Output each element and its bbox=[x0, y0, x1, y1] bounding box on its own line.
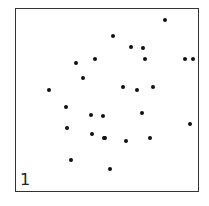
data-point bbox=[89, 113, 93, 117]
data-point bbox=[111, 34, 115, 38]
data-point bbox=[108, 167, 112, 171]
data-point bbox=[69, 158, 73, 162]
data-point bbox=[151, 85, 155, 89]
data-point bbox=[65, 126, 69, 130]
data-point bbox=[141, 46, 145, 50]
data-point bbox=[103, 136, 107, 140]
data-point bbox=[121, 85, 125, 89]
data-point bbox=[47, 88, 51, 92]
data-point bbox=[143, 57, 147, 61]
data-point bbox=[183, 57, 187, 61]
data-point bbox=[148, 136, 152, 140]
data-point bbox=[163, 18, 167, 22]
data-point bbox=[74, 61, 78, 65]
panel-label: 1 bbox=[20, 172, 30, 188]
data-point bbox=[140, 111, 144, 115]
data-point bbox=[81, 76, 85, 80]
data-point bbox=[64, 105, 68, 109]
data-point bbox=[90, 132, 94, 136]
data-point bbox=[124, 139, 128, 143]
data-point bbox=[129, 45, 133, 49]
data-point bbox=[188, 122, 192, 126]
data-point bbox=[191, 57, 195, 61]
data-point bbox=[101, 114, 105, 118]
scatter-plot-frame bbox=[15, 8, 199, 192]
data-point bbox=[93, 57, 97, 61]
data-point bbox=[135, 88, 139, 92]
